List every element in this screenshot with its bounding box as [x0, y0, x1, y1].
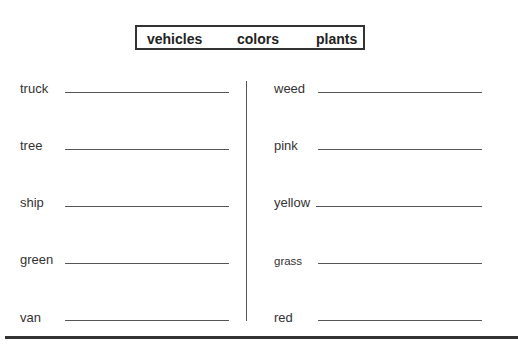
word-truck: truck — [20, 81, 48, 96]
answer-blank-ship[interactable] — [65, 206, 229, 207]
word-pink: pink — [274, 138, 298, 153]
answer-blank-truck[interactable] — [65, 92, 229, 93]
category-plants: plants — [316, 31, 357, 47]
answer-blank-pink[interactable] — [318, 149, 482, 150]
word-green: green — [20, 252, 53, 267]
word-tree: tree — [20, 138, 42, 153]
word-van: van — [20, 310, 41, 325]
category-header-box: vehicles colors plants — [135, 25, 365, 50]
word-yellow: yellow — [274, 195, 310, 210]
bottom-rule — [5, 336, 518, 339]
category-colors: colors — [237, 31, 279, 47]
category-vehicles: vehicles — [147, 31, 202, 47]
answer-blank-van[interactable] — [65, 320, 229, 321]
answer-blank-red[interactable] — [318, 320, 482, 321]
answer-blank-yellow[interactable] — [316, 206, 482, 207]
answer-blank-green[interactable] — [65, 263, 229, 264]
word-ship: ship — [20, 195, 44, 210]
word-red: red — [274, 310, 293, 325]
word-weed: weed — [274, 81, 305, 96]
answer-blank-tree[interactable] — [65, 149, 229, 150]
answer-blank-grass[interactable] — [318, 263, 482, 264]
word-grass: grass — [274, 254, 302, 269]
column-divider — [246, 81, 247, 321]
answer-blank-weed[interactable] — [318, 92, 482, 93]
